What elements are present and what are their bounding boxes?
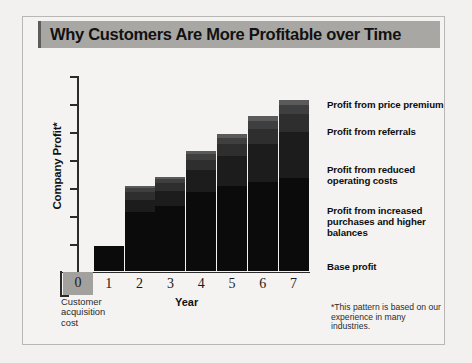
bar-segment — [217, 186, 247, 272]
bar-segment — [186, 170, 216, 192]
y-axis-tick — [70, 188, 77, 190]
x-tick-label-6: 6 — [248, 276, 278, 292]
y-axis-label: Company Profit* — [51, 101, 63, 231]
bar-segment — [155, 183, 185, 191]
bar-segment — [217, 134, 247, 138]
legend-item-2: Profit from referrals — [327, 126, 445, 137]
x-tick-label-2: 2 — [125, 276, 155, 292]
bar-segment — [248, 144, 278, 182]
bar-segment — [94, 246, 124, 272]
legend-item-5: Base profit — [327, 261, 445, 272]
x-tick-label-1: 1 — [94, 276, 124, 292]
bar-segment — [217, 156, 247, 186]
bar-segment — [248, 121, 278, 129]
bar-segment — [248, 182, 278, 271]
y-axis-tick — [70, 160, 77, 162]
bar-segment — [217, 144, 247, 156]
x-tick-label-5: 5 — [217, 276, 247, 292]
bar-segment — [279, 132, 309, 178]
y-axis-tick — [70, 216, 77, 218]
bar-segment — [248, 116, 278, 121]
x-tick-label-3: 3 — [155, 276, 185, 292]
bar-segment — [155, 177, 185, 179]
bar-segment — [125, 188, 155, 192]
bar-segment — [279, 105, 309, 114]
y-axis-line — [77, 76, 79, 272]
bar-segment — [155, 191, 185, 206]
zero-bracket-vertical — [60, 271, 62, 296]
y-axis-tick — [70, 244, 77, 246]
x-axis-line — [60, 272, 310, 274]
chart-footnote: *This pattern is based on our experience… — [331, 303, 441, 332]
bar-segment — [125, 186, 155, 188]
bar-segment — [217, 138, 247, 144]
bar-segment — [155, 206, 185, 272]
x-axis-label: Year — [175, 296, 198, 308]
bar-segment — [279, 178, 309, 271]
bar-segment — [186, 154, 216, 160]
bar-segment — [248, 129, 278, 144]
legend-item-3: Profit from reduced operating costs — [327, 164, 445, 186]
legend-item-1: Profit from price premium — [327, 99, 445, 110]
legend-item-4: Profit from increased purchases and high… — [327, 205, 445, 238]
acquisition-cost-note: Customer acquisition cost — [61, 297, 123, 328]
bar-segment — [125, 212, 155, 272]
y-axis-tick — [70, 132, 77, 134]
x-tick-label-7: 7 — [279, 276, 309, 292]
plot-area: Company Profit* 0 Customer acquisition c… — [0, 0, 472, 363]
y-axis-tick — [70, 104, 77, 106]
bar-segment — [125, 192, 155, 200]
bar-segment — [186, 192, 216, 272]
x-tick-label-0: 0 — [63, 275, 93, 291]
bar-segment — [186, 160, 216, 170]
bar-segment — [279, 114, 309, 132]
bar-segment — [155, 179, 185, 183]
bar-segment — [125, 200, 155, 212]
bar-segment — [279, 100, 309, 106]
y-axis-top-cap — [70, 76, 77, 78]
x-tick-label-4: 4 — [186, 276, 216, 292]
bar-segment — [186, 151, 216, 154]
